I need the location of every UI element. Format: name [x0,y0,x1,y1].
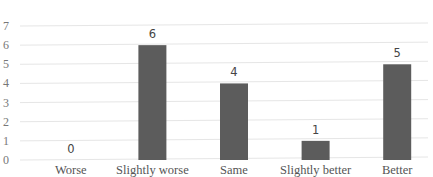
bar-chart: 01234567 06415 WorseSlightly worseSameSl… [0,0,433,177]
y-tick-label: 1 [3,134,9,148]
x-category-label: Slightly better [280,163,352,177]
bar [220,83,248,160]
data-label: 6 [149,27,156,41]
x-category-label: Worse [55,163,87,177]
gridline [20,23,428,26]
data-label: 5 [394,46,401,60]
x-category-label: Better [382,163,413,177]
x-category-label: Same [220,163,248,177]
bar [138,45,166,160]
bar [302,141,330,160]
y-tick-label: 0 [3,153,9,167]
data-label: 0 [67,142,74,156]
x-axis-categories: WorseSlightly worseSameSlightly betterBe… [55,163,413,177]
y-tick-label: 4 [3,76,9,90]
gridline [20,61,428,64]
y-tick-label: 7 [3,19,9,33]
y-tick-label: 5 [3,57,9,71]
x-category-label: Slightly worse [116,163,189,177]
y-axis-ticks: 01234567 [3,19,9,167]
data-label: 1 [312,123,319,137]
y-tick-label: 3 [3,96,9,110]
bar [383,64,411,160]
gridline [20,42,428,45]
data-label: 4 [230,65,237,79]
gridline [20,80,428,83]
y-tick-label: 6 [3,38,9,52]
y-tick-label: 2 [3,115,9,129]
